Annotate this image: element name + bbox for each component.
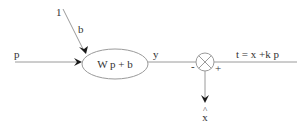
minus-sign: - bbox=[191, 60, 195, 72]
plus-sign: + bbox=[215, 62, 221, 74]
summing-junction bbox=[196, 53, 214, 71]
target-expression: t = x +k p bbox=[236, 48, 279, 60]
bias-arrowhead bbox=[79, 46, 88, 54]
estimate-label: x bbox=[202, 111, 208, 123]
neuron-expression: W p + b bbox=[97, 58, 133, 70]
bias-weight-label: b bbox=[78, 23, 84, 35]
adaline-diagram: 1 b p W p + b y - + t = x +k p ^ x bbox=[0, 0, 299, 130]
input-label: p bbox=[14, 48, 20, 60]
bias-input-label: 1 bbox=[56, 6, 62, 18]
output-label: y bbox=[153, 48, 159, 60]
